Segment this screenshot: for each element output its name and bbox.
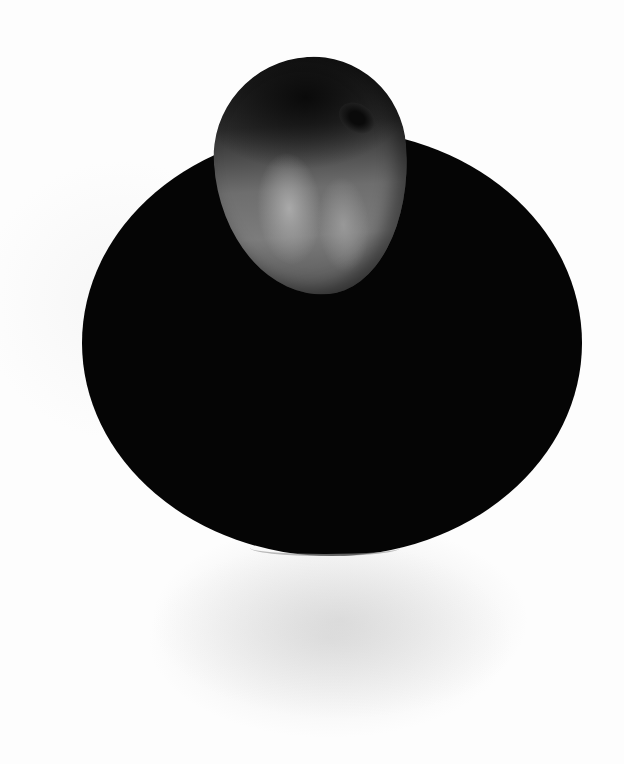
plate-rim-highlight bbox=[250, 540, 400, 556]
photograph bbox=[0, 0, 624, 764]
